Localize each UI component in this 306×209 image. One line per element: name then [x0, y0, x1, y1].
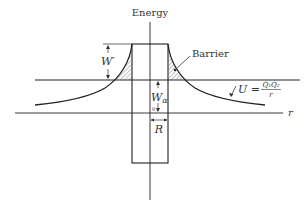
- w-alpha-arrowhead-up: [156, 81, 160, 85]
- barrier-pointer-dot: [174, 69, 177, 72]
- w-prime-arrowhead-down: [106, 75, 110, 79]
- potential-formula-denominator: r: [269, 91, 273, 99]
- w-prime-label: W′: [101, 55, 115, 68]
- potential-formula-lhs: U =: [238, 83, 260, 96]
- radius-arrowhead-left: [151, 119, 155, 122]
- right-barrier-hatch: [168, 45, 187, 80]
- left-barrier-hatch: [113, 45, 132, 80]
- w-prime-arrowhead-up: [106, 45, 110, 49]
- coulomb-barrier-diagram: Energy r W′ Wα 0: [0, 0, 306, 209]
- barrier-label: Barrier: [192, 48, 229, 59]
- barrier-pointer: [175, 56, 190, 70]
- origin-label: 0: [152, 106, 155, 112]
- energy-axis-label: Energy: [132, 7, 169, 18]
- r-axis-label: r: [288, 107, 294, 118]
- diagram-canvas: Energy r W′ Wα 0: [0, 0, 306, 209]
- w-alpha-label: Wα: [151, 91, 168, 105]
- w-alpha-arrowhead-down: [156, 108, 160, 112]
- radius-arrowhead-right: [164, 119, 168, 122]
- left-coulomb-curve: [35, 44, 132, 105]
- potential-pointer-arrowhead: [229, 93, 234, 97]
- potential-formula-numerator: Q₁Q₂: [262, 81, 279, 89]
- radius-label: R: [154, 123, 163, 136]
